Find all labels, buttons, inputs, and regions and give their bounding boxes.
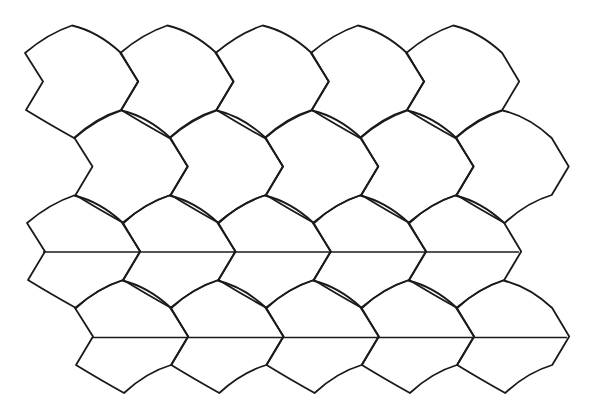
tile-r2-c5 [456,111,569,224]
tile-r2-c2 [170,111,283,224]
tiling-svg [0,0,596,407]
tile-r2-c1 [75,111,188,224]
tile-r1-c4 [311,26,424,139]
horizontal-lines-group [43,252,567,338]
tessellation-diagram [0,0,596,407]
tile-r1-c2 [120,26,233,139]
tile-r2-c4 [360,111,473,224]
tile-r2-c3 [265,111,378,224]
tile-r1-c5 [406,26,519,139]
tile-r1-c1 [25,26,138,139]
tile-r1-c3 [216,26,329,139]
